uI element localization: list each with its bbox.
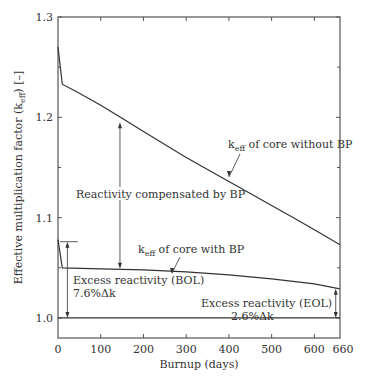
- x-tick-label: 400: [218, 343, 239, 356]
- x-tick-label: 200: [133, 343, 154, 356]
- compensated-arrowhead-up: [118, 122, 122, 128]
- leader-without-bp: [229, 154, 240, 177]
- bol-arrowhead-down: [65, 312, 69, 318]
- eol-arrowhead-down: [334, 312, 338, 318]
- x-axis-title: Burnup (days): [159, 358, 238, 371]
- annotations-layer: keff of core without BPkeff of core with…: [60, 122, 353, 323]
- label-compensated: Reactivity compensated by BP: [76, 188, 246, 201]
- bol-arrowhead-up: [65, 242, 69, 248]
- y-tick-label: 1.2: [36, 111, 54, 124]
- label-with-bp: keff of core with BP: [138, 243, 245, 258]
- x-tick-label: 300: [176, 343, 197, 356]
- y-axis-title: Effective multiplication factor (keff) […: [12, 71, 27, 284]
- x-tick-label: 600: [304, 343, 325, 356]
- label-bol: Excess reactivity (BOL): [73, 274, 204, 287]
- compensated-arrowhead-down: [118, 263, 122, 269]
- y-tick-label: 1.1: [36, 212, 54, 225]
- label-without-bp: keff of core without BP: [228, 138, 353, 153]
- y-tick-label: 1.3: [36, 11, 54, 24]
- value-bol: 7.6%Δk: [73, 287, 116, 300]
- value-eol: 2.6%Δk: [231, 310, 274, 323]
- x-tick-label: 660: [333, 343, 354, 356]
- x-tick-label: 0: [55, 343, 62, 356]
- label-eol: Excess reactivity (EOL): [201, 297, 332, 310]
- chart: 1.01.11.21.30100200300400500600660Burnup…: [0, 0, 366, 377]
- leader-with-bp: [172, 257, 180, 273]
- eol-arrowhead-up: [334, 289, 338, 295]
- x-tick-label: 500: [261, 343, 282, 356]
- x-tick-label: 100: [90, 343, 111, 356]
- y-tick-label: 1.0: [36, 312, 54, 325]
